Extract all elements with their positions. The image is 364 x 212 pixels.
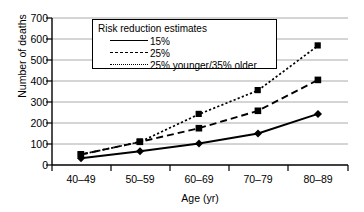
legend-item-25: 25% bbox=[110, 47, 271, 59]
x-tick-label: 80–89 bbox=[288, 173, 348, 185]
legend-label: 15% bbox=[150, 36, 170, 47]
line-chart: Number of deaths 700 600 500 400 300 200… bbox=[0, 0, 364, 212]
legend-label: 25% younger/35% older bbox=[150, 60, 257, 71]
x-axis-title: Age (yr) bbox=[52, 192, 348, 204]
legend-line-dashed-icon bbox=[110, 48, 148, 58]
legend-line-dotted-icon bbox=[110, 60, 148, 70]
series-line-solid bbox=[81, 114, 318, 158]
x-tick-label: 70–79 bbox=[228, 173, 288, 185]
x-tick-label: 50–59 bbox=[110, 173, 170, 185]
chart-legend: Risk reduction estimates 15% 25% 25% you… bbox=[92, 19, 277, 69]
y-axis-ticks bbox=[46, 18, 52, 165]
legend-line-solid-icon bbox=[110, 36, 148, 46]
legend-title: Risk reduction estimates bbox=[98, 23, 271, 35]
legend-label: 25% bbox=[150, 48, 170, 59]
x-axis-ticks bbox=[52, 165, 348, 171]
legend-item-25-younger-35-older: 25% younger/35% older bbox=[110, 59, 271, 71]
x-tick-label: 60–69 bbox=[169, 173, 229, 185]
legend-item-15: 15% bbox=[110, 35, 271, 47]
x-tick-label: 40–49 bbox=[51, 173, 111, 185]
